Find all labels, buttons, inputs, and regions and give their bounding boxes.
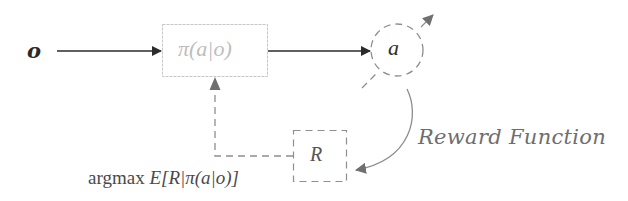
action-out-arrow: [421, 15, 433, 27]
reward-function-label: Reward Function: [418, 127, 606, 148]
reward-function-curve-arrow: [356, 89, 412, 170]
feedback-dashed-arrow: [215, 80, 293, 156]
feedback-arrowhead-icon: [210, 77, 221, 90]
rl-policy-diagram: o π(a|o) a R argmax E[R|π(a|o)] Reward F…: [0, 0, 628, 201]
objective-prefix: argmax: [88, 167, 149, 188]
action-diagonal-dashed-line: [362, 73, 377, 88]
objective-annotation: argmax E[R|π(a|o)]: [88, 168, 239, 187]
policy-label: π(a|o): [178, 38, 232, 60]
observation-label: o: [27, 40, 41, 61]
reward-label: R: [310, 144, 322, 164]
objective-expectation: E: [149, 167, 161, 188]
action-label: a: [388, 37, 399, 59]
objective-body: [R|π(a|o)]: [161, 167, 239, 188]
